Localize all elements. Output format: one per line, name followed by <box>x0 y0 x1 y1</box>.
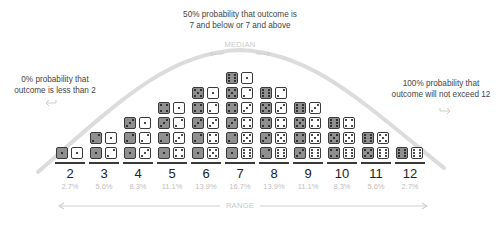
pip <box>364 140 366 142</box>
pip <box>351 140 353 142</box>
pip <box>228 74 230 76</box>
pip <box>280 107 282 109</box>
die-gray-4 <box>192 102 204 114</box>
pip <box>367 152 369 154</box>
pip <box>160 110 162 112</box>
pip <box>262 95 264 97</box>
probability-label: 13.9% <box>257 182 291 191</box>
die-white-1 <box>173 102 185 114</box>
die-white-3 <box>207 117 219 129</box>
pip <box>234 77 236 79</box>
pip <box>345 125 347 127</box>
pip <box>268 104 270 106</box>
probability-label: 8.3% <box>121 182 155 191</box>
pip <box>234 134 236 136</box>
pip <box>419 152 421 154</box>
pip <box>262 119 264 121</box>
pip <box>336 134 338 136</box>
pip <box>175 149 177 151</box>
pip <box>385 155 387 157</box>
pip <box>398 149 400 151</box>
die-gray-6 <box>294 102 306 114</box>
die-white-2 <box>241 87 253 99</box>
die-gray-5 <box>260 102 272 114</box>
column-baseline <box>55 162 85 164</box>
pip <box>302 140 304 142</box>
pip <box>296 110 298 112</box>
pip <box>246 77 248 79</box>
pip <box>330 122 332 124</box>
column-baseline <box>293 162 323 164</box>
pip <box>228 110 230 112</box>
pip <box>348 137 350 139</box>
pip <box>215 149 217 151</box>
die-white-2 <box>173 117 185 129</box>
pip <box>311 125 313 127</box>
sum-label: 2 <box>53 166 87 181</box>
die-gray-4 <box>158 102 170 114</box>
die-white-3 <box>309 102 321 114</box>
pip <box>302 149 304 151</box>
pip <box>404 152 406 154</box>
column-baseline <box>225 162 255 164</box>
pip <box>249 140 251 142</box>
median-label: MEDIAN <box>210 40 270 49</box>
die-gray-3 <box>192 117 204 129</box>
pip <box>317 152 319 154</box>
pip <box>296 107 298 109</box>
pip <box>336 140 338 142</box>
pip <box>336 119 338 121</box>
pip <box>262 89 264 91</box>
pip <box>163 122 165 124</box>
pip <box>351 152 353 154</box>
pip <box>314 137 316 139</box>
pip <box>317 125 319 127</box>
pip <box>364 137 366 139</box>
pip <box>311 155 313 157</box>
pip <box>370 137 372 139</box>
pip <box>243 140 245 142</box>
pip <box>197 152 199 154</box>
pip <box>141 140 143 142</box>
probability-label: 2.7% <box>53 182 87 191</box>
column-baseline <box>89 162 119 164</box>
min-note-line-2: outcome is less than 2 <box>5 86 105 97</box>
die-white-4 <box>343 117 355 129</box>
probability-label: 11.1% <box>291 182 325 191</box>
pip <box>345 155 347 157</box>
pip <box>132 134 134 136</box>
pip <box>178 137 180 139</box>
die-gray-6 <box>328 117 340 129</box>
column-baseline <box>157 162 187 164</box>
die-gray-6 <box>226 72 238 84</box>
pip <box>283 104 285 106</box>
pip <box>404 155 406 157</box>
pip <box>228 95 230 97</box>
die-white-5 <box>275 132 287 144</box>
pip <box>364 155 366 157</box>
die-gray-6 <box>260 87 272 99</box>
die-white-2 <box>275 87 287 99</box>
pip <box>178 107 180 109</box>
pip <box>311 152 313 154</box>
max-note-line-2: outcome will not exceed 12 <box>384 90 498 101</box>
pip <box>212 122 214 124</box>
pip <box>277 149 279 151</box>
pip <box>160 140 162 142</box>
pip <box>296 134 298 136</box>
pip <box>262 104 264 106</box>
pip <box>249 119 251 121</box>
sum-label: 10 <box>325 166 359 181</box>
pip <box>283 140 285 142</box>
die-white-5 <box>377 132 389 144</box>
pip <box>209 134 211 136</box>
pip <box>379 155 381 157</box>
probability-label: 11.1% <box>155 182 189 191</box>
die-gray-5 <box>192 87 204 99</box>
pip <box>166 119 168 121</box>
pip <box>126 140 128 142</box>
pip <box>296 140 298 142</box>
pip <box>141 155 143 157</box>
pip <box>302 125 304 127</box>
pip <box>268 95 270 97</box>
